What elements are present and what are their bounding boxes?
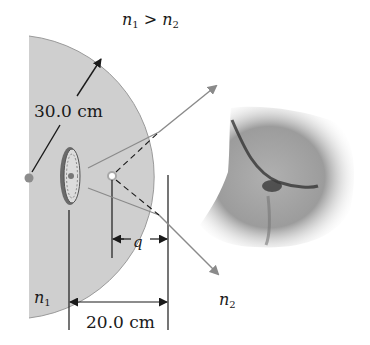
coin-object [60,147,80,205]
observer-face-image [200,107,354,248]
outside-medium-label: n2 [219,290,236,310]
refraction-diagram: n1 > n2 30.0 cm n1 n2 q 20.0 cm [0,0,370,345]
image-distance-label: q [133,233,143,251]
object-distance-label: 20.0 cm [86,312,155,332]
index-condition-label: n1 > n2 [122,10,179,30]
sphere-center-dot [25,174,34,183]
radius-label: 30.0 cm [34,101,103,121]
eye-icon [262,180,282,192]
image-point [108,172,116,180]
inside-medium-label: n1 [34,288,51,308]
glass-sphere [29,36,154,318]
